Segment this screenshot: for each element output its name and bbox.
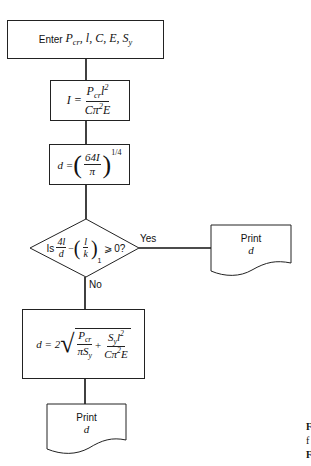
caption-line-2: f: [306, 434, 311, 448]
decision-content: Is 4ld − (lk)1 ⩾ 0?: [40, 232, 132, 264]
I-fraction: Pcrl2 Cπ2E: [84, 84, 112, 117]
caption-line-1: F: [306, 420, 311, 434]
decision-suffix: ⩾ 0?: [104, 243, 126, 254]
print-no: Print d: [47, 408, 126, 438]
print-yes: Print d: [211, 229, 291, 259]
compute-I-box: I = Pcrl2 Cπ2E: [50, 80, 130, 121]
print-no-var: d: [84, 423, 90, 435]
decision-frac2: lk: [82, 237, 88, 260]
print-yes-var: d: [248, 244, 254, 256]
d-lhs: d =: [58, 159, 74, 171]
d2-lhs: d = 2: [36, 338, 60, 350]
decision-subscript: 1: [98, 257, 102, 264]
compute-d-box: d = (64Iπ)1/4: [49, 144, 130, 185]
decision-frac1: 4ld: [56, 237, 66, 260]
d2-term2: Syl2 Cπ2E: [103, 330, 128, 360]
print-yes-label: Print: [241, 233, 262, 244]
yes-label: Yes: [140, 233, 156, 244]
d2-plus: +: [95, 339, 101, 351]
decision-prefix: Is: [47, 243, 55, 254]
compute-d2-box: d = 2 √ Pcr πSy + Syl2 Cπ2E: [22, 309, 145, 379]
d2-sqrt: √ Pcr πSy + Syl2 Cπ2E: [60, 328, 130, 361]
d-exponent: 1/4: [111, 148, 121, 157]
print-no-label: Print: [76, 412, 97, 423]
d-fraction: 64Iπ: [84, 152, 101, 177]
caption-line-3: F: [306, 448, 311, 462]
input-box: Enter Pcr, l, C, E, Sy: [7, 20, 164, 59]
no-label: No: [89, 279, 102, 290]
caption-fragment: F f F: [306, 420, 311, 462]
d2-term1: Pcr πSy: [77, 330, 93, 361]
I-lhs: I =: [67, 93, 82, 108]
input-vars: Pcr, l, C, E, Sy: [65, 31, 132, 47]
input-prefix: Enter: [39, 34, 63, 45]
